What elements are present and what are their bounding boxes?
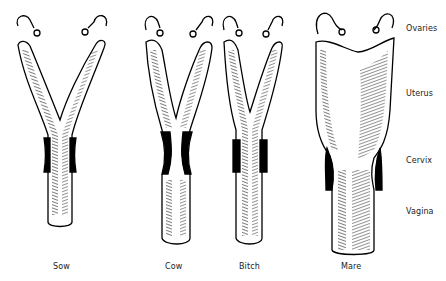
label-mare: Mare xyxy=(341,262,361,271)
cow-tract xyxy=(145,16,213,244)
label-cervix: Cervix xyxy=(406,156,432,165)
label-bitch: Bitch xyxy=(239,262,260,271)
label-sow: Sow xyxy=(53,262,70,271)
label-ovaries: Ovaries xyxy=(406,24,437,33)
sow-tract xyxy=(17,16,107,227)
bitch-tract xyxy=(223,16,283,244)
label-vagina: Vagina xyxy=(406,207,434,216)
label-cow: Cow xyxy=(165,262,182,271)
reproductive-tract-illustrations xyxy=(0,0,446,281)
mare-tract xyxy=(316,13,394,254)
label-uterus: Uterus xyxy=(406,89,433,98)
